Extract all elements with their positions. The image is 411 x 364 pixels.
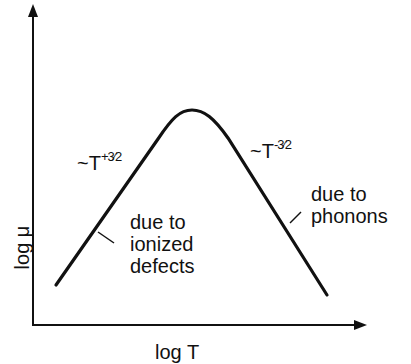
annotation-line: ionized — [130, 233, 194, 255]
left-power-law-prefix: ~T — [77, 152, 101, 174]
y-axis-arrow-icon — [28, 4, 38, 17]
right-power-law-label: ~T-3⁄2 — [250, 140, 291, 165]
ionized-defects-annotation: due to ionized defects — [130, 211, 194, 277]
annotation-line: due to — [130, 211, 194, 233]
left-power-law-label: ~T+3⁄2 — [77, 152, 121, 177]
annotation-line: phonons — [311, 205, 388, 227]
annotation-line: due to — [311, 183, 388, 205]
right-power-law-prefix: ~T — [250, 140, 274, 162]
left-power-law-exponent: +3⁄2 — [101, 149, 121, 164]
right-power-law-exponent: -3⁄2 — [274, 137, 291, 152]
phonons-annotation: due to phonons — [311, 183, 388, 227]
x-axis-label: log T — [155, 341, 199, 364]
x-axis-arrow-icon — [354, 320, 367, 330]
annotation-line: defects — [130, 255, 194, 277]
y-axis-label: log μ — [11, 218, 34, 278]
ionized-defects-leader-line — [98, 232, 114, 243]
phonons-leader-line — [290, 212, 301, 223]
